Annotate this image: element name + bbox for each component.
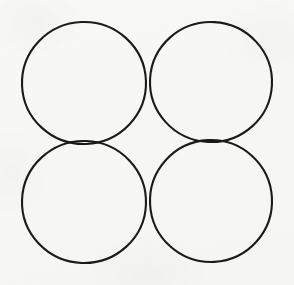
circle-group xyxy=(20,19,275,265)
top-right-circle xyxy=(147,19,275,145)
circles-diagram xyxy=(0,0,294,285)
top-left-circle xyxy=(20,20,148,146)
bottom-left-circle xyxy=(20,139,148,265)
figure-canvas xyxy=(0,0,294,285)
bottom-right-circle xyxy=(147,137,275,265)
